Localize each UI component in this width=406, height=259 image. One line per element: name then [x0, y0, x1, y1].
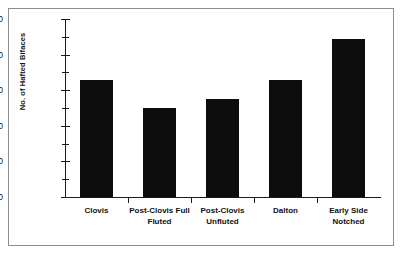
bar [80, 80, 113, 197]
y-tick-label: 3.00 [0, 90, 3, 91]
y-tick-major [61, 197, 70, 198]
x-tick [128, 197, 129, 203]
x-tick [317, 197, 318, 203]
x-tick [254, 197, 255, 203]
bar [332, 39, 365, 197]
x-axis-label: Early Side Notched [317, 206, 380, 227]
y-tick-label: 0.00 [0, 197, 3, 198]
y-tick-label: 4.00 [0, 55, 3, 56]
y-tick-label: 2.00 [0, 126, 3, 127]
x-axis-label: Dalton [254, 206, 317, 217]
x-axis-label: Post-Clovis Full Fluted [128, 206, 191, 227]
bar [269, 80, 302, 197]
plot-area [65, 19, 380, 197]
y-tick-label: 1.00 [0, 161, 3, 162]
x-axis-label: Clovis [65, 206, 128, 217]
bar [143, 108, 176, 197]
bar [206, 99, 239, 197]
x-axis-line [65, 197, 381, 198]
x-axis-label: Post-Clovis Unfluted [191, 206, 254, 227]
chart-frame: No. of Hafted Bifaces 0.001.002.003.004.… [8, 8, 394, 246]
x-tick [191, 197, 192, 203]
y-axis-title: No. of Hafted Bifaces [18, 0, 27, 147]
y-tick-label: 5.00 [0, 19, 3, 20]
